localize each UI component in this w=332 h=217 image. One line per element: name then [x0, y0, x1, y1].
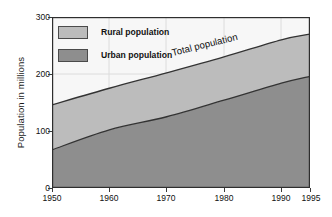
- x-tick-mark-1970: [166, 188, 167, 192]
- x-tick-label-1960: 1960: [100, 193, 119, 203]
- legend-swatch-rural: [58, 26, 88, 39]
- x-tick-label-1970: 1970: [157, 193, 176, 203]
- legend-swatch-urban: [58, 49, 88, 62]
- legend-label-rural: Rural population: [101, 27, 169, 37]
- population-area-chart: Population in millions 300 200 100 0: [0, 0, 332, 217]
- legend-label-urban: Urban population: [101, 50, 172, 60]
- x-tick-mark-1995: [310, 188, 311, 192]
- y-tick-label-100: 100: [24, 127, 50, 136]
- y-axis-tick-labels: 300 200 100 0: [22, 0, 50, 217]
- x-tick-mark-1950: [52, 188, 53, 192]
- y-tick-label-300: 300: [24, 13, 50, 22]
- x-tick-label-1990: 1990: [272, 193, 291, 203]
- x-tick-mark-1980: [224, 188, 225, 192]
- x-tick-mark-1960: [109, 188, 110, 192]
- y-tick-label-0: 0: [24, 184, 50, 193]
- legend-item-rural-population: Rural population: [58, 24, 198, 40]
- x-axis-tick-labels: 1950 1960 1970 1980 1990 1995: [0, 193, 332, 207]
- x-tick-mark-1990: [281, 188, 282, 192]
- y-tick-label-200: 200: [24, 70, 50, 79]
- x-tick-label-1980: 1980: [215, 193, 234, 203]
- x-tick-label-1950: 1950: [43, 193, 62, 203]
- x-tick-label-1995: 1995: [302, 193, 321, 203]
